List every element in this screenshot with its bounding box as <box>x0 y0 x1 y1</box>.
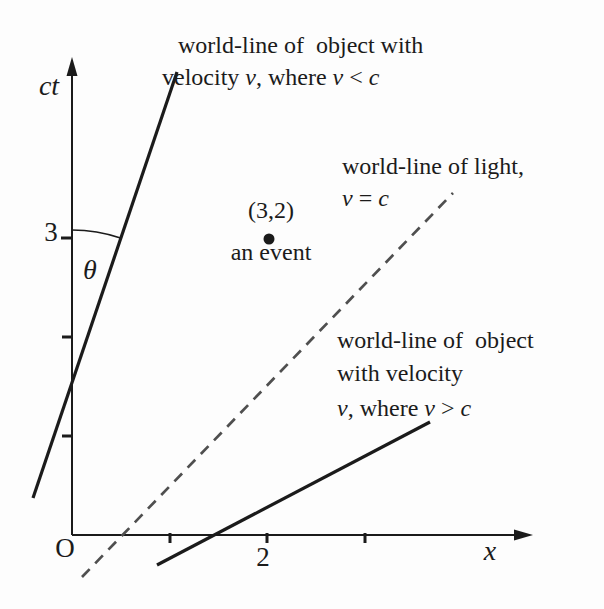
x-axis-label: x <box>484 536 496 566</box>
event-caption-label: an event <box>231 238 312 266</box>
ct-tick-3-label: 3 <box>44 217 58 247</box>
ct-axis-arrowhead-icon <box>67 57 78 76</box>
event-coords-label: (3,2) <box>248 196 294 224</box>
x-tick-2-label: 2 <box>256 542 270 572</box>
worldline-fast-line <box>157 422 430 565</box>
annotation-fast-line3: v, where v > c <box>337 394 471 422</box>
annotation-slow-line2: velocity v, where v < c <box>162 63 379 91</box>
ct-axis-label: ct <box>39 71 59 101</box>
annotation-fast-line2: with velocity <box>337 359 463 387</box>
annotation-light-line1: world-line of light, <box>342 152 524 180</box>
theta-label: θ <box>83 255 97 285</box>
worldline-slow-line <box>33 72 177 498</box>
diagram-canvas <box>0 0 604 609</box>
theta-angle-arc <box>72 230 121 238</box>
x-axis-arrowhead-icon <box>514 530 533 541</box>
spacetime-diagram: ct x O 3 2 θ (3,2) an event world-line o… <box>0 0 604 609</box>
annotation-fast-line1: world-line of object <box>337 326 534 354</box>
origin-label: O <box>55 533 75 563</box>
annotation-slow-line1: world-line of object with <box>178 31 423 59</box>
annotation-light-line2: v = c <box>342 184 389 212</box>
